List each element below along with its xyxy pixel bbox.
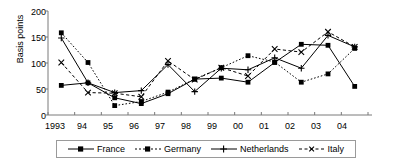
legend-label-germany: Germany	[164, 144, 201, 154]
series-italy	[59, 29, 358, 100]
chart-plot-area: Basis points 200 150 100 50 0 1993 94 95…	[0, 0, 396, 136]
legend-item-italy[interactable]: Italy	[299, 144, 345, 154]
legend-item-france[interactable]: France	[68, 144, 125, 154]
chart-legend: France Germany Netherlands Italy	[56, 140, 356, 158]
chart-svg	[0, 0, 396, 136]
series-germany	[59, 30, 357, 108]
legend-item-germany[interactable]: Germany	[135, 144, 201, 154]
legend-swatch-italy	[299, 144, 325, 154]
legend-item-netherlands[interactable]: Netherlands	[211, 144, 289, 154]
chart-screenshot: Basis points 200 150 100 50 0 1993 94 95…	[0, 0, 396, 164]
axes-group	[45, 11, 372, 115]
legend-label-france: France	[97, 144, 125, 154]
legend-swatch-netherlands	[211, 144, 237, 154]
legend-label-netherlands: Netherlands	[240, 144, 289, 154]
legend-swatch-france	[68, 144, 94, 154]
legend-swatch-germany	[135, 144, 161, 154]
series-group	[58, 29, 358, 108]
legend-label-italy: Italy	[328, 144, 345, 154]
